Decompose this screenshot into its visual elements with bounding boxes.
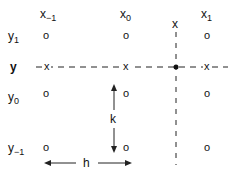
target-x-label: x (172, 18, 178, 30)
row-label-y0: y0 (8, 91, 19, 107)
col-label-x-minus-1: x−1 (40, 8, 56, 24)
diagram-lines (0, 0, 235, 175)
grid-point: o (43, 142, 49, 153)
grid-point: o (123, 30, 129, 41)
grid-point: o (204, 88, 210, 99)
row-label-y: y (10, 61, 17, 73)
grid-point: o (123, 88, 129, 99)
h-spacing-label: h (83, 157, 90, 169)
k-spacing-label: k (110, 113, 116, 125)
interp-point: x (203, 61, 211, 72)
col-label-x1: x1 (201, 8, 212, 24)
grid-point: o (43, 30, 49, 41)
grid-point: o (43, 88, 49, 99)
row-label-y-minus-1: y−1 (8, 142, 24, 158)
col-label-x0: x0 (120, 8, 131, 24)
interp-point: x (122, 61, 130, 72)
interp-point: x (43, 61, 51, 72)
row-label-y1: y1 (8, 30, 19, 46)
grid-point: o (123, 142, 129, 153)
target-point (174, 65, 179, 70)
grid-point: o (204, 142, 210, 153)
grid-point: o (204, 30, 210, 41)
